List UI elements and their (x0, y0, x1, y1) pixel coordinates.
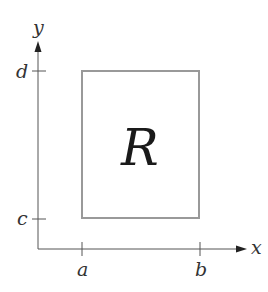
tick-label-b: b (195, 258, 207, 280)
tick-label-c: c (17, 207, 28, 229)
y-axis-label: y (32, 16, 44, 38)
y-axis-arrow-icon (35, 41, 42, 52)
region-diagram: y x d c a b R (0, 0, 268, 292)
x-axis-label: x (251, 236, 262, 258)
region-label: R (120, 119, 159, 177)
x-axis-arrow-icon (236, 246, 247, 253)
tick-label-a: a (77, 258, 88, 280)
tick-label-d: d (16, 60, 28, 82)
